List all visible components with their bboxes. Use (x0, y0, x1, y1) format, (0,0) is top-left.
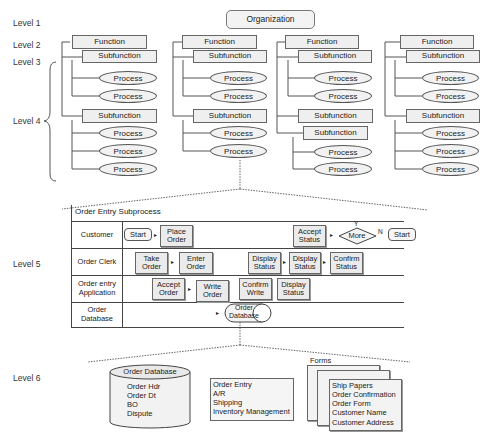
database-table: Order Hdr (127, 382, 160, 391)
process-node[interactable]: Process (99, 162, 157, 176)
lane-label-order-entry-application: Order entry Application (72, 276, 122, 302)
subfunction-node[interactable]: Subfunction (298, 50, 372, 63)
function-node[interactable]: Function (285, 35, 359, 49)
order-database-store[interactable]: Order Database (226, 304, 262, 319)
form-sheet-front: Ship Papers Order Confirmation Order For… (329, 379, 402, 431)
process-list-item: Shipping (213, 398, 291, 407)
process-node[interactable]: Process (314, 145, 372, 159)
database-table: Order Dt (127, 391, 160, 400)
subfunction-node[interactable]: Subfunction (406, 109, 480, 123)
forms-title: Forms (310, 356, 331, 365)
function-node[interactable]: Function (400, 35, 474, 49)
database-title: Order Database (110, 367, 190, 376)
process-node[interactable]: Process (422, 89, 479, 103)
process-node[interactable]: Process (210, 89, 267, 103)
process-node[interactable]: Process (99, 89, 157, 103)
organization-node[interactable]: Organization (226, 10, 315, 29)
process-node[interactable]: Process (314, 71, 372, 85)
level-3-label: Level 3 (13, 57, 40, 67)
database-table: BO (127, 400, 160, 409)
lane-label-order-database: Order Database (72, 303, 122, 327)
process-node[interactable]: Process (210, 144, 267, 158)
step-display-status[interactable]: Display Status (277, 278, 310, 300)
step-display-status[interactable]: Display Status (248, 252, 281, 274)
level-2-label: Level 2 (13, 40, 40, 50)
arrow-right-icon: ▸ (154, 231, 157, 238)
step-accept-order[interactable]: Accept Order (152, 278, 185, 300)
decision-no-label: N (378, 228, 383, 235)
subfunction-node[interactable]: Subfunction (193, 109, 267, 123)
step-enter-order[interactable]: Enter Order (179, 252, 213, 274)
process-node[interactable]: Process (99, 71, 157, 85)
start-terminal[interactable]: Start (388, 228, 416, 241)
database-tables: Order Hdr Order Dt BO Dispute (127, 382, 160, 419)
step-confirm-write[interactable]: Confirm Write (239, 278, 272, 300)
subfunction-node[interactable]: Subfunction (82, 109, 157, 123)
step-display-status[interactable]: Display Status (289, 252, 321, 274)
process-node[interactable]: Process (210, 71, 267, 85)
decision-more[interactable]: More (345, 231, 369, 240)
lane-label-customer: Customer (72, 222, 122, 248)
form-item: Order Confirmation (332, 390, 399, 399)
start-terminal[interactable]: Start (124, 228, 152, 241)
process-node[interactable]: Process (99, 144, 157, 158)
arrow-right-icon: ▸ (216, 309, 219, 316)
form-item: Customer Address (332, 418, 399, 427)
function-node[interactable]: Function (182, 35, 257, 49)
subfunction-node[interactable]: Subfunction (298, 109, 373, 123)
database-table: Dispute (127, 409, 160, 418)
subfunction-node[interactable]: Subfunction (82, 50, 157, 63)
level-4-label: Level 4 (13, 116, 40, 126)
process-node[interactable]: Process (314, 162, 372, 176)
process-list-item: A/R (213, 389, 291, 398)
form-item: Order Form (332, 399, 399, 408)
process-node[interactable]: Process (99, 126, 157, 140)
step-place-order[interactable]: Place Order (160, 225, 193, 247)
level-5-label: Level 5 (13, 259, 40, 269)
arrow-right-icon: ▸ (323, 258, 326, 265)
process-node[interactable]: Process (422, 144, 479, 158)
process-list-item: Inventory Management (213, 407, 291, 416)
level-1-label: Level 1 (13, 18, 40, 28)
form-item: Ship Papers (332, 381, 399, 390)
process-node[interactable]: Process (210, 126, 267, 140)
process-node[interactable]: Process (422, 126, 479, 140)
arrow-right-icon: ▸ (283, 258, 286, 265)
step-accept-status[interactable]: Accept Status (293, 225, 326, 247)
arrow-right-icon: ▸ (330, 231, 333, 238)
level-6-label: Level 6 (13, 373, 40, 383)
process-list: Order Entry A/R Shipping Inventory Manag… (210, 378, 294, 421)
step-write-order[interactable]: Write Order (196, 280, 229, 302)
nested-subfunction-node[interactable]: Subfunction (303, 126, 368, 140)
subfunction-node[interactable]: Subfunction (193, 50, 267, 63)
lane-label-order-clerk: Order Clerk (72, 249, 122, 275)
swimlane-title: Order Entry Subprocess (75, 207, 161, 216)
decision-yes-label: Y (354, 220, 358, 227)
process-node[interactable]: Process (422, 71, 479, 85)
subfunction-node[interactable]: Subfunction (406, 50, 480, 63)
process-node[interactable]: Process (422, 162, 479, 176)
process-node[interactable]: Process (314, 89, 372, 103)
step-confirm-status[interactable]: Confirm Status (330, 252, 363, 274)
process-list-item: Order Entry (213, 380, 291, 389)
function-node[interactable]: Function (72, 35, 147, 49)
arrow-right-icon: ▸ (188, 285, 191, 292)
arrow-right-icon: ▸ (171, 258, 174, 265)
step-take-order[interactable]: Take Order (135, 252, 168, 274)
form-item: Customer Name (332, 408, 399, 417)
